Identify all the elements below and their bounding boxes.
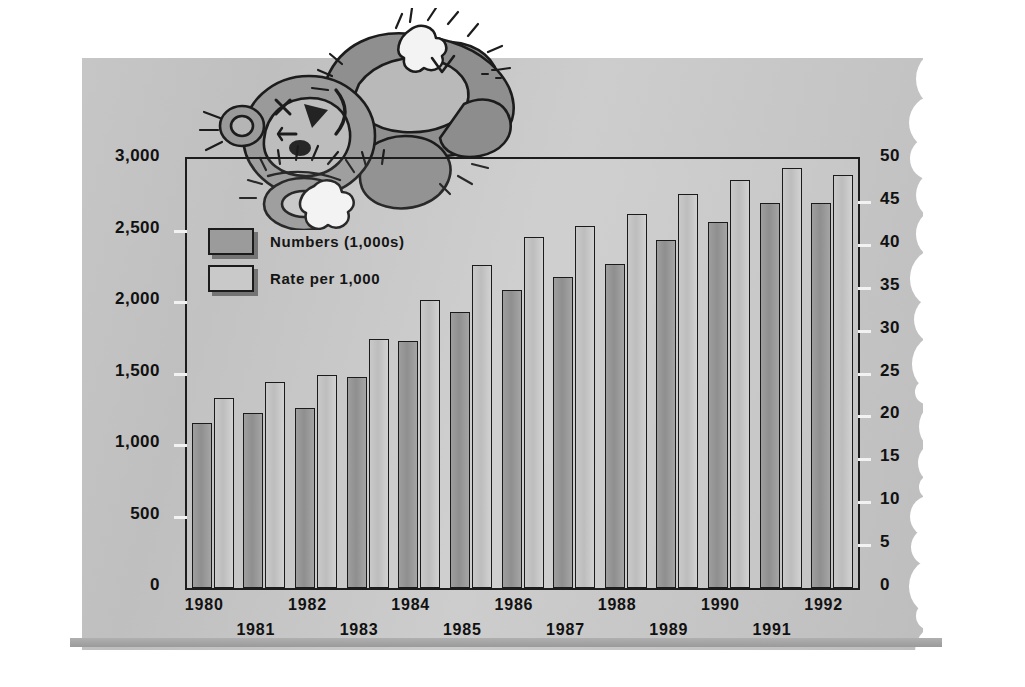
bar-numbers-1985 (450, 312, 470, 588)
x-axis-label-1992: 1992 (804, 596, 843, 614)
bar-numbers-1988 (605, 264, 625, 588)
x-axis-label-1986: 1986 (495, 596, 534, 614)
bar-rate-1980 (214, 398, 234, 588)
x-axis-label-1989: 1989 (649, 621, 688, 639)
legend-swatch-numbers (208, 228, 254, 255)
left-axis-tick-label: 3,000 (0, 146, 160, 166)
bar-rate-1987 (575, 226, 595, 588)
right-axis-tick-label: 35 (880, 275, 900, 295)
left-tick (174, 444, 187, 447)
bar-numbers-1984 (398, 341, 418, 588)
bar-rate-1983 (369, 339, 389, 588)
bottom-rule (70, 638, 942, 647)
right-tick (858, 287, 871, 290)
left-tick (174, 373, 187, 376)
bar-rate-1988 (627, 214, 647, 588)
bar-numbers-1992 (811, 203, 831, 588)
legend-item-numbers: Numbers (1,000s) (208, 228, 405, 255)
x-axis-label-1980: 1980 (185, 596, 224, 614)
right-axis-tick-label: 25 (880, 361, 900, 381)
right-axis-tick-label: 20 (880, 403, 900, 423)
right-axis-tick-label: 30 (880, 318, 900, 338)
x-axis-label-1991: 1991 (753, 621, 792, 639)
right-tick (858, 501, 871, 504)
bar-rate-1981 (265, 382, 285, 588)
bar-rate-1984 (420, 300, 440, 588)
right-axis-tick-label: 45 (880, 189, 900, 209)
bar-numbers-1991 (760, 203, 780, 588)
bar-rate-1985 (472, 265, 492, 588)
right-axis-tick-label: 0 (880, 575, 890, 595)
right-tick (858, 458, 871, 461)
x-axis-label-1987: 1987 (546, 621, 585, 639)
left-tick (174, 301, 187, 304)
right-axis-tick-label: 15 (880, 446, 900, 466)
x-axis-label-1981: 1981 (236, 621, 275, 639)
right-tick (858, 544, 871, 547)
x-axis-label-1984: 1984 (391, 596, 430, 614)
bar-rate-1989 (678, 194, 698, 588)
bar-numbers-1983 (347, 377, 367, 588)
bar-numbers-1986 (502, 290, 522, 588)
legend-swatch-rate (208, 265, 254, 292)
bar-rate-1992 (833, 175, 853, 588)
right-axis-tick-label: 40 (880, 232, 900, 252)
plot-area (185, 157, 860, 590)
chart-legend: Numbers (1,000s) Rate per 1,000 (208, 228, 405, 302)
right-tick (858, 415, 871, 418)
bar-numbers-1982 (295, 408, 315, 588)
x-axis-label-1988: 1988 (598, 596, 637, 614)
left-axis-tick-label: 500 (0, 504, 160, 524)
right-tick (858, 330, 871, 333)
bar-rate-1986 (524, 237, 544, 588)
bar-rate-1982 (317, 375, 337, 588)
bar-rate-1990 (730, 180, 750, 588)
right-axis-tick-label: 5 (880, 532, 890, 552)
left-axis-tick-label: 1,500 (0, 361, 160, 381)
legend-item-rate: Rate per 1,000 (208, 265, 405, 292)
right-tick (858, 373, 871, 376)
right-tick (858, 244, 871, 247)
chart-plate: Numbers (1,000s) Rate per 1,000 05001,00… (0, 0, 1025, 687)
x-axis-label-1990: 1990 (701, 596, 740, 614)
left-axis-tick-label: 2,500 (0, 218, 160, 238)
left-axis-tick-label: 1,000 (0, 432, 160, 452)
bar-rate-1991 (782, 168, 802, 588)
x-axis-label-1982: 1982 (288, 596, 327, 614)
right-axis-tick-label: 50 (880, 146, 900, 166)
right-tick (858, 201, 871, 204)
left-axis-tick-label: 2,000 (0, 289, 160, 309)
bar-numbers-1980 (192, 423, 212, 588)
bar-numbers-1981 (243, 413, 263, 588)
left-tick (174, 230, 187, 233)
right-axis-tick-label: 10 (880, 489, 900, 509)
bar-numbers-1987 (553, 277, 573, 588)
bar-numbers-1990 (708, 222, 728, 588)
left-axis-tick-label: 0 (0, 575, 160, 595)
legend-label-numbers: Numbers (1,000s) (270, 233, 405, 250)
legend-label-rate: Rate per 1,000 (270, 270, 380, 287)
left-tick (174, 516, 187, 519)
x-axis-label-1983: 1983 (340, 621, 379, 639)
x-axis-label-1985: 1985 (443, 621, 482, 639)
bar-numbers-1989 (656, 240, 676, 588)
